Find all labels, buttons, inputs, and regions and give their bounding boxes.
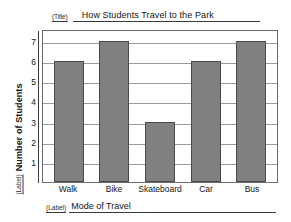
bar-slot xyxy=(92,31,138,182)
x-tick-label: Bus xyxy=(229,184,275,197)
x-tick-label: Skateboard xyxy=(137,184,183,197)
x-tick-label: Car xyxy=(183,184,229,197)
y-axis-label-group: (Label) Number of Students xyxy=(10,30,24,195)
bar-slot xyxy=(228,31,274,182)
x-tick-label: Bike xyxy=(91,184,137,197)
y-tick-label: 6 xyxy=(31,58,36,67)
bar-slot xyxy=(137,31,183,182)
chart-title-row: (Title) How Students Travel to the Park xyxy=(52,8,260,22)
y-axis-label-tag: (Label) xyxy=(13,174,24,194)
y-axis-line xyxy=(38,31,39,183)
y-tick-label: 1 xyxy=(31,158,36,167)
bar-slot xyxy=(183,31,229,182)
y-tick-label: 2 xyxy=(31,138,36,147)
y-tick-label: 5 xyxy=(31,78,36,87)
bar-slot xyxy=(46,31,92,182)
y-axis-ticks: 7654321 xyxy=(24,30,38,183)
y-axis-label: Number of Students xyxy=(14,83,24,171)
chart-title: How Students Travel to the Park xyxy=(82,10,214,20)
x-axis-label: Mode of Travel xyxy=(71,201,131,211)
bar-walk xyxy=(54,61,84,182)
bar-car xyxy=(191,61,221,182)
bar-bus xyxy=(236,41,266,182)
bar-skateboard xyxy=(145,122,175,182)
bars-container xyxy=(43,31,277,182)
plot-area xyxy=(42,30,278,183)
x-axis-label-group: (Label) Mode of Travel xyxy=(46,199,276,213)
y-tick-label: 7 xyxy=(31,38,36,47)
title-underline: How Students Travel to the Park xyxy=(73,9,260,22)
x-axis-label-underline: Mode of Travel xyxy=(69,200,276,213)
title-tag-label: (Title) xyxy=(52,12,68,23)
y-tick-label: 3 xyxy=(31,118,36,127)
x-axis-label-tag: (Label) xyxy=(46,203,66,214)
y-tick-label: 4 xyxy=(31,98,36,107)
bar-bike xyxy=(99,41,129,182)
x-axis-ticks: WalkBikeSkateboardCarBus xyxy=(42,184,278,197)
x-tick-label: Walk xyxy=(45,184,91,197)
